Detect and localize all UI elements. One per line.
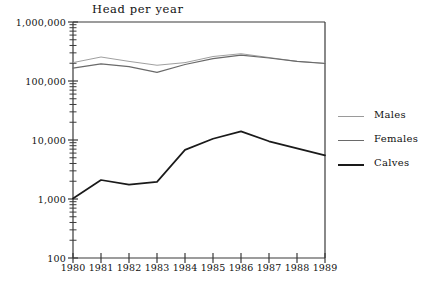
chart-legend: MalesFemalesCalves (338, 108, 430, 180)
legend-item-males[interactable]: Males (338, 108, 430, 132)
legend-item-females[interactable]: Females (338, 132, 430, 156)
chart-container: Head per year 1,000,000100,00010,0001,00… (0, 0, 432, 285)
legend-label-females: Females (374, 133, 418, 144)
legend-swatch-females (338, 140, 364, 141)
series-line-males (73, 54, 325, 66)
legend-swatch-males (338, 116, 364, 117)
series-line-females (73, 55, 325, 72)
legend-item-calves[interactable]: Calves (338, 156, 430, 180)
legend-label-males: Males (374, 109, 406, 120)
legend-label-calves: Calves (374, 157, 409, 168)
legend-swatch-calves (338, 164, 364, 166)
series-line-calves (73, 131, 325, 198)
